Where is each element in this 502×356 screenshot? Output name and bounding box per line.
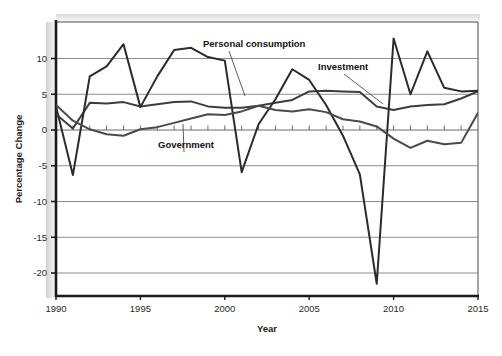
x-tick-label-2015: 2015 (467, 303, 488, 314)
y-tick-label--15: -15 (33, 232, 47, 243)
series-label-investment: Investment (318, 61, 369, 72)
series-label-government: Government (158, 139, 215, 150)
y-axis-title: Percentage Change (13, 115, 24, 204)
plot-area (56, 22, 478, 296)
y-tick-label-0: 0 (42, 124, 47, 135)
x-tick-label-2010: 2010 (383, 303, 404, 314)
x-axis-title: Year (257, 323, 277, 334)
x-tick-label-1995: 1995 (130, 303, 151, 314)
percentage-change-line-chart: 1050-5-10-15-20 199019952000200520102015… (0, 0, 502, 356)
x-tick-label-2000: 2000 (214, 303, 235, 314)
x-tick-label-2005: 2005 (299, 303, 320, 314)
y-tick-label--5: -5 (39, 160, 47, 171)
y-tick-label-10: 10 (36, 53, 47, 64)
y-tick-label--10: -10 (33, 196, 47, 207)
y-tick-label-5: 5 (42, 89, 47, 100)
series-label-personal-consumption: Personal consumption (203, 38, 306, 49)
chart-figure: 1050-5-10-15-20 199019952000200520102015… (0, 0, 502, 356)
x-tick-label-1990: 1990 (45, 303, 66, 314)
y-tick-label--20: -20 (33, 267, 47, 278)
